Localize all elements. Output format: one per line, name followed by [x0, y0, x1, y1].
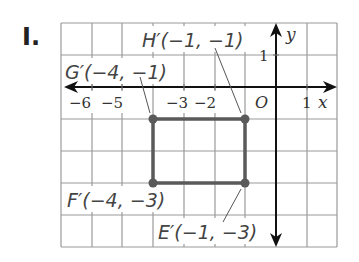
- point-g-prime: [149, 115, 158, 124]
- x-tick-neg5: −5: [101, 94, 123, 112]
- y-axis: [270, 23, 282, 247]
- label-e-prime: E′(−1, −3): [158, 221, 257, 243]
- point-h-prime: [241, 115, 250, 124]
- point-f-prime: [149, 179, 158, 188]
- point-e-prime: [241, 179, 250, 188]
- label-h-prime: H′(−1, −1): [142, 29, 244, 51]
- x-axis-label: x: [318, 92, 328, 112]
- x-tick-neg2: −2: [194, 94, 216, 112]
- x-tick-neg6: −6: [69, 94, 91, 112]
- label-g-prime: G′(−4, −1): [65, 61, 167, 83]
- origin-label: O: [255, 93, 268, 112]
- y-tick-1: 1: [259, 47, 269, 65]
- label-f-prime: F′(−4, −3): [67, 189, 165, 211]
- problem-label: I.: [22, 23, 40, 51]
- x-tick-neg3: −3: [166, 94, 188, 112]
- x-tick-1: 1: [302, 94, 312, 112]
- coordinate-plane: I. H′(−1, −1) G′(−4, −1) F′(−4, −3) E′(−…: [0, 0, 359, 262]
- grid: [61, 23, 337, 247]
- y-axis-label: y: [285, 24, 296, 44]
